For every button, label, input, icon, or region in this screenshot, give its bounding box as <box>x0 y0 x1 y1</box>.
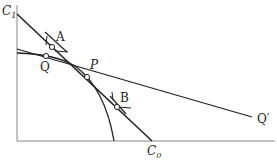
diagram: C1 A Q P B Q′ C0 <box>0 0 277 162</box>
label-q: Q <box>40 60 50 74</box>
diagram-svg <box>0 0 277 162</box>
label-b: B <box>120 91 129 105</box>
line-q-qprime <box>17 49 252 117</box>
point-q <box>43 53 48 58</box>
label-p: P <box>90 58 98 72</box>
label-c1: C1 <box>2 4 16 20</box>
label-a: A <box>56 30 65 44</box>
point-p <box>84 74 89 79</box>
tangent-a-cross <box>46 36 47 45</box>
point-a <box>49 44 54 49</box>
point-b <box>114 104 119 109</box>
frontier-curve <box>17 53 114 141</box>
label-q-prime: Q′ <box>257 112 270 126</box>
label-c0: C0 <box>147 144 161 160</box>
